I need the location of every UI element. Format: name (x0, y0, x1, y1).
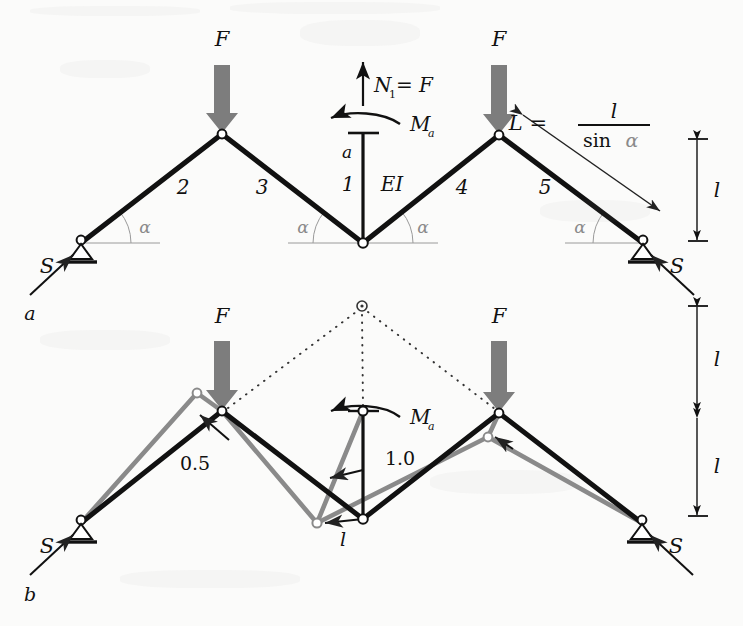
moment-arc-arrow (331, 113, 400, 124)
angle-label-left: α (139, 217, 151, 237)
force-label-left: F (214, 27, 231, 51)
member-5 (499, 135, 643, 243)
moment-subscript: a (428, 420, 435, 433)
hinge-left-apex (218, 130, 227, 139)
force-label-right: F (491, 27, 508, 51)
panel-b-height-dimensions (688, 306, 708, 516)
panel-b-reference-lines (228, 312, 495, 409)
member-2 (81, 134, 222, 243)
angle-label-center-left: α (297, 217, 309, 237)
angle-label-center-right: α (417, 217, 429, 237)
virtual-apex-dot (360, 304, 363, 307)
reference-line-right (368, 312, 495, 409)
member-5 (499, 413, 642, 523)
hinge-column-top (358, 406, 367, 415)
height-dimension-label: l (714, 178, 720, 202)
member-label-5: 5 (539, 175, 552, 199)
angle-arc-center-left (313, 212, 325, 244)
length-label: l (340, 528, 346, 550)
figure-root: F F S S 2 3 1 4 5 EI a N 1 = F M a α (0, 0, 743, 626)
normal-force-subscript: 1 (389, 88, 396, 101)
panel-b: F F S S M a 0.5 1.0 l l l b (24, 301, 720, 605)
reaction-label-left: S (40, 534, 54, 558)
stiffness-label: EI (380, 172, 405, 196)
deformed-member-3 (222, 411, 317, 523)
moment-label-group-b: M a (409, 405, 435, 433)
reference-line-vertical (362, 315, 363, 405)
deformed-hinge-right-apex (484, 433, 493, 442)
moment-subscript: a (428, 127, 435, 140)
reference-line-left (228, 312, 356, 408)
panel-b-reaction-arrows (30, 535, 693, 575)
hinge-center-node (358, 514, 368, 524)
panel-a: F F S S 2 3 1 4 5 EI a N 1 = F M a α (24, 27, 720, 324)
panel-b-supports (66, 524, 658, 542)
force-label-left: F (214, 304, 231, 328)
force-arrow-right (483, 341, 515, 412)
deformed-hinge-left-apex (193, 389, 202, 398)
support-triangle-right (631, 524, 653, 539)
support-triangle-left (70, 524, 92, 539)
normal-force-equals-f: = F (396, 73, 434, 97)
length-formula-lhs: L = (508, 111, 547, 135)
height-dimension-label-top: l (714, 347, 720, 371)
angle-label-right: α (574, 217, 586, 237)
displacement-label-center: 1.0 (385, 447, 415, 469)
reaction-label-right: S (669, 534, 683, 558)
panel-b-letter: b (24, 583, 36, 605)
deformed-hinge-center-node (312, 518, 321, 527)
panel-b-load-arrows (206, 341, 515, 412)
normal-force-label-group: N 1 = F (373, 73, 434, 101)
section-label-a: a (342, 142, 352, 162)
angle-arc-center-right (402, 212, 414, 244)
moment-label-group-a: M a (409, 112, 435, 140)
hinge-left-apex (218, 407, 227, 416)
panel-a-letter: a (24, 302, 35, 324)
angle-arc-left (120, 212, 132, 244)
length-formula-group: L = l sin α (508, 99, 650, 151)
panel-a-height-dimension (688, 139, 708, 241)
angle-arc-right (593, 212, 605, 244)
length-formula-sin: sin (583, 129, 611, 151)
hinge-center-node (358, 238, 368, 248)
deformed-member-1-column (317, 411, 363, 523)
support-triangle-left (70, 244, 92, 259)
member-label-4: 4 (455, 175, 469, 199)
displacement-label-left: 0.5 (180, 452, 210, 474)
hinge-right-apex (495, 409, 504, 418)
panel-a-load-arrows (206, 65, 515, 134)
height-dimension-label-bottom: l (714, 454, 720, 478)
reaction-label-left: S (40, 254, 54, 278)
support-triangle-right (632, 244, 654, 259)
reaction-label-right: S (670, 254, 684, 278)
hinge-right-apex (495, 131, 504, 140)
deformed-member-5 (488, 437, 642, 523)
length-formula-numerator: l (611, 99, 617, 123)
member-label-1: 1 (342, 172, 355, 196)
panel-a-reaction-arrows (30, 255, 694, 295)
frame-diagram-svg: F F S S 2 3 1 4 5 EI a N 1 = F M a α (0, 0, 743, 626)
force-arrow-left (206, 65, 238, 133)
member-label-3: 3 (256, 175, 269, 199)
force-label-right: F (491, 304, 508, 328)
force-arrow-left (206, 341, 238, 410)
member-label-2: 2 (176, 175, 190, 199)
length-formula-alpha: α (626, 129, 639, 151)
